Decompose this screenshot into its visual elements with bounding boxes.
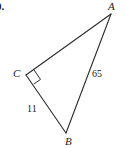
vertex-label-b: B	[65, 136, 72, 147]
vertex-label-a: A	[108, 1, 115, 12]
triangle-side-AC	[26, 14, 111, 75]
triangle-side-AB	[66, 14, 111, 133]
vertex-label-c: C	[13, 68, 20, 79]
side-length-label-ab: 65	[92, 69, 102, 79]
right-angle-marker-icon	[34, 70, 41, 85]
geometry-figure: 0. A B C 65 11	[0, 0, 126, 148]
side-length-label-cb: 11	[27, 104, 37, 114]
